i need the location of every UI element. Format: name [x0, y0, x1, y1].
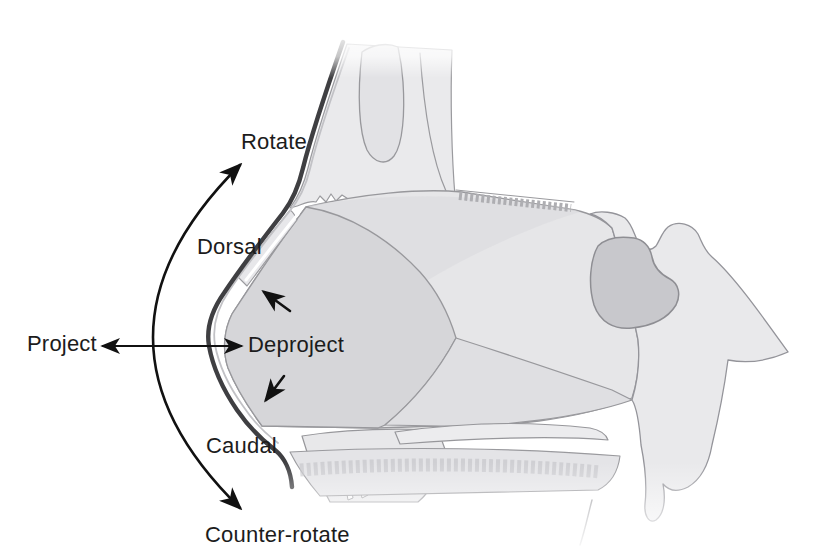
figure-canvas: Rotate Dorsal Project Deproject Caudal C…	[0, 0, 816, 556]
nasal-anatomy-diagram	[0, 0, 816, 556]
dorsal-label: Dorsal	[197, 235, 262, 259]
project-label: Project	[27, 332, 97, 356]
counter-rotate-label: Counter-rotate	[205, 523, 350, 547]
caudal-label: Caudal	[206, 434, 277, 458]
rotate-label: Rotate	[241, 130, 307, 154]
top-fade	[283, 24, 478, 78]
deproject-label: Deproject	[248, 333, 344, 357]
anatomy-illustration	[208, 24, 788, 556]
